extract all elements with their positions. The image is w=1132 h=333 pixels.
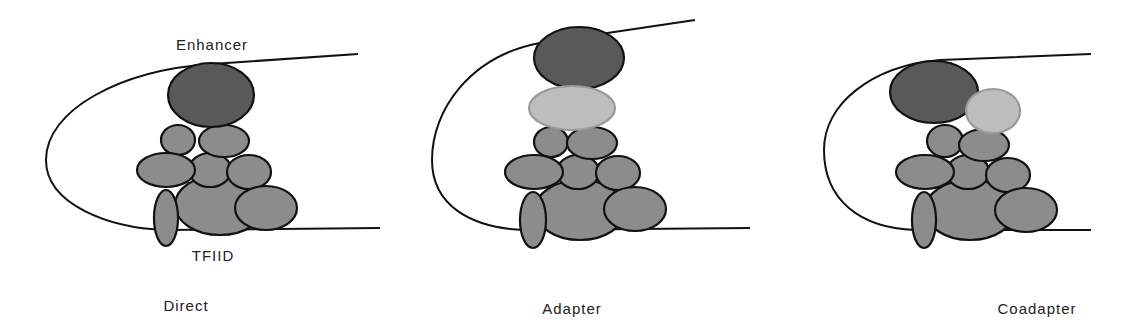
tfiid-subunit bbox=[567, 127, 617, 159]
tfiid-subunit bbox=[896, 155, 954, 189]
panel-caption: Coadapter bbox=[997, 300, 1076, 317]
tfiid-label: TFIID bbox=[192, 247, 235, 264]
tfiid-subunit bbox=[986, 158, 1030, 192]
panel-caption: Adapter bbox=[542, 300, 602, 317]
tfiid-subunit bbox=[912, 192, 936, 248]
enhancer-protein bbox=[168, 63, 254, 127]
enhancer-protein bbox=[534, 27, 624, 89]
tfiid-subunit bbox=[505, 155, 563, 189]
tfiid-subunit bbox=[995, 188, 1057, 232]
tfiid-subunit bbox=[534, 127, 568, 157]
panel-adapter: Adapter bbox=[432, 20, 750, 317]
panel-coadapter: Coadapter bbox=[824, 54, 1091, 317]
adapter-protein bbox=[529, 86, 615, 130]
tfiid-subunit bbox=[604, 187, 666, 231]
tfiid-subunit bbox=[927, 125, 963, 157]
enhancer-protein bbox=[890, 61, 978, 123]
tfiid-subunit bbox=[235, 186, 297, 230]
tfiid-subunit bbox=[227, 155, 271, 189]
tfiid-subunit bbox=[520, 192, 546, 248]
panel-caption: Direct bbox=[163, 297, 208, 314]
tfiid-subunit bbox=[137, 153, 195, 187]
mechanism-diagram: Enhancer TFIID Direct Adapter Coadapter bbox=[0, 0, 1132, 333]
panel-direct: Enhancer TFIID Direct bbox=[46, 36, 380, 314]
tfiid-subunit bbox=[154, 190, 178, 246]
enhancer-label: Enhancer bbox=[176, 36, 248, 53]
coadapter-protein bbox=[966, 89, 1020, 133]
tfiid-subunit bbox=[959, 129, 1009, 161]
tfiid-subunit bbox=[199, 125, 249, 157]
tfiid-subunit bbox=[596, 156, 640, 190]
tfiid-subunit bbox=[161, 125, 195, 155]
